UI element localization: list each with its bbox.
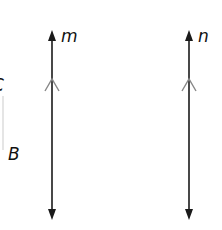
arrow-up-icon — [48, 30, 56, 41]
arrow-down-icon — [185, 209, 193, 220]
line-m — [45, 30, 59, 220]
line-m-label: m — [61, 28, 78, 45]
arrow-up-icon — [185, 30, 193, 41]
diagram-canvas — [0, 0, 222, 230]
point-c-label: C — [0, 77, 4, 94]
parallel-lines-diagram: m n C B — [0, 0, 222, 230]
point-b-label: B — [8, 146, 20, 163]
arrow-down-icon — [48, 209, 56, 220]
line-n — [182, 30, 196, 220]
line-n-label: n — [198, 28, 209, 45]
